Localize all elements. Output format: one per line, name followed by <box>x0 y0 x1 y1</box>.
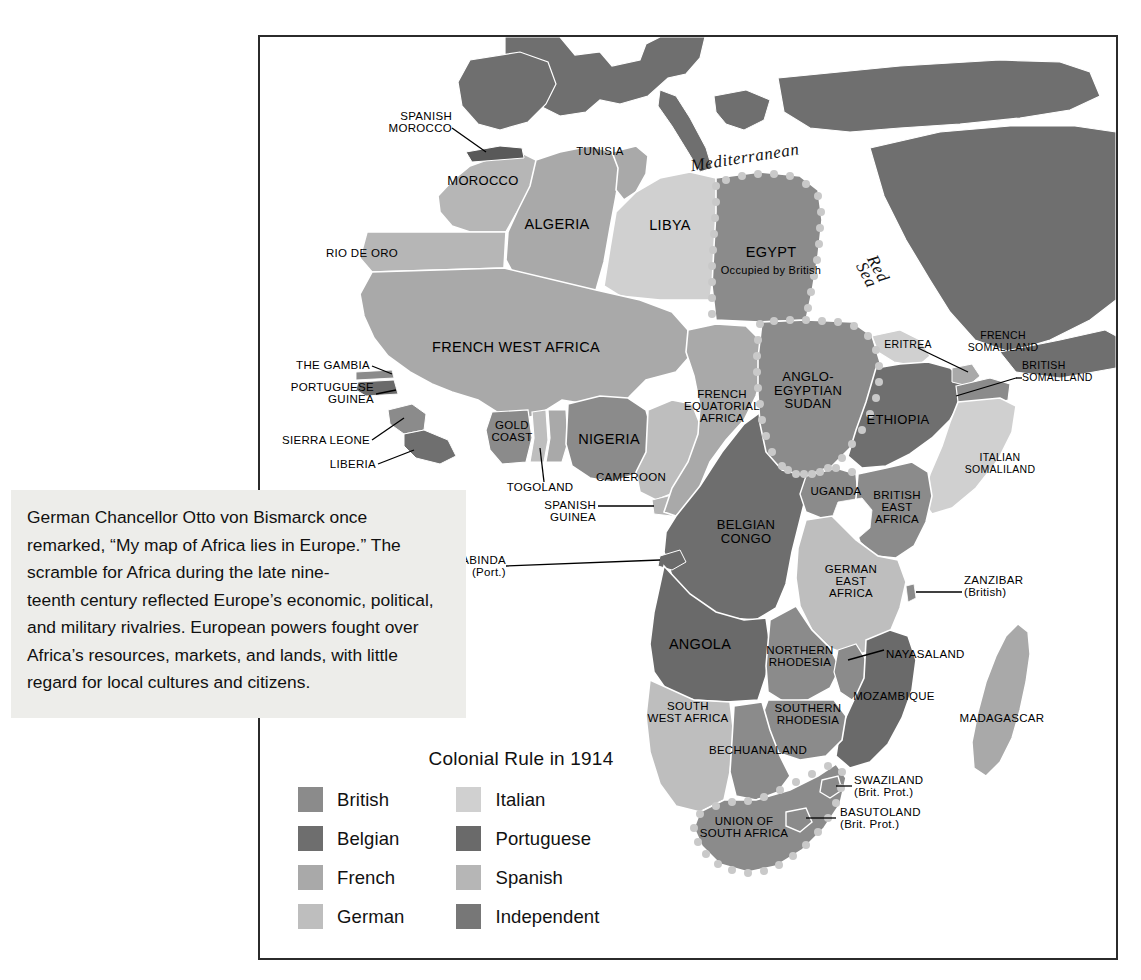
bismarck-quote-callout: German Chancellor Otto von Bismarck once… <box>11 490 466 718</box>
legend-swatch-british <box>298 787 323 812</box>
legend-item-portuguese: Portuguese <box>456 826 599 851</box>
legend-column-right: Italian Portuguese Spanish Independent <box>456 787 599 929</box>
map-page: SPANISH MOROCCO MOROCCO RIO DE ORO ALGER… <box>0 0 1141 980</box>
legend-label-portuguese: Portuguese <box>495 828 591 850</box>
legend-column-left: British Belgian French German <box>298 787 404 929</box>
legend-item-belgian: Belgian <box>298 826 404 851</box>
legend-title: Colonial Rule in 1914 <box>290 748 710 770</box>
legend-swatch-belgian <box>298 826 323 851</box>
legend-item-german: German <box>298 904 404 929</box>
legend-swatch-spanish <box>456 865 481 890</box>
legend-swatch-independent <box>456 904 481 929</box>
legend-item-french: French <box>298 865 404 890</box>
legend-item-british: British <box>298 787 404 812</box>
legend-label-independent: Independent <box>495 906 599 928</box>
bismarck-quote-text: German Chancellor Otto von Bismarck once… <box>27 504 450 697</box>
legend-label-belgian: Belgian <box>337 828 399 850</box>
legend-swatch-german <box>298 904 323 929</box>
legend-swatch-italian <box>456 787 481 812</box>
map-legend: Colonial Rule in 1914 British Belgian Fr… <box>290 748 710 929</box>
legend-item-independent: Independent <box>456 904 599 929</box>
legend-label-spanish: Spanish <box>495 867 563 889</box>
legend-item-italian: Italian <box>456 787 599 812</box>
legend-item-spanish: Spanish <box>456 865 599 890</box>
legend-label-german: German <box>337 906 404 928</box>
legend-label-british: British <box>337 789 389 811</box>
legend-label-french: French <box>337 867 395 889</box>
legend-swatch-french <box>298 865 323 890</box>
legend-swatch-portuguese <box>456 826 481 851</box>
legend-label-italian: Italian <box>495 789 545 811</box>
